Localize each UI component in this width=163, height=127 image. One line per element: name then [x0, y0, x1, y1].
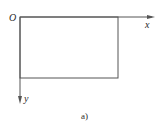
y-axis-arrow-icon	[18, 96, 22, 104]
x-axis-label: x	[144, 19, 150, 30]
origin-label: O	[9, 12, 16, 23]
coordinate-diagram: O x y a)	[0, 0, 163, 127]
y-axis-label: y	[23, 93, 29, 104]
rectangle	[20, 17, 118, 78]
caption: a)	[81, 111, 88, 121]
